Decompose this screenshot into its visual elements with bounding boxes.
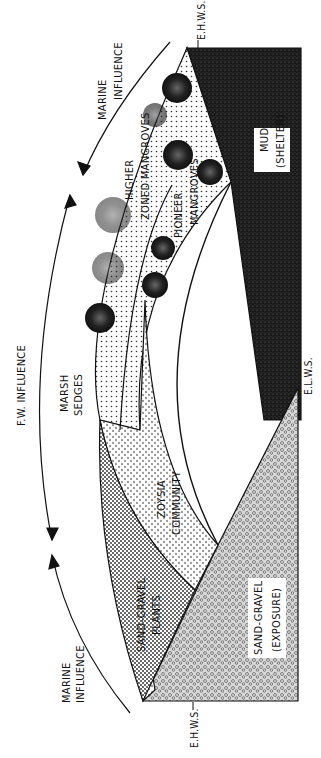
zoysia-line1: ZOYSIA [155, 480, 168, 518]
elws-label: E.L.W.S. [303, 357, 314, 395]
marine-influence-bottom-line2: INFLUENCE [74, 645, 87, 703]
sand-gravel-plants-line1: SAND-GRAVEL [135, 578, 148, 652]
tree-icon [95, 197, 131, 233]
sand-gravel-exposure-label: SAND-GRAVEL (EXPOSURE) [248, 578, 286, 658]
sand-gravel-exposure-line1: SAND-GRAVEL [252, 581, 265, 655]
marine-influence-bottom-line1: MARINE [60, 662, 73, 703]
mud-label-line2: (SHELTER) [274, 114, 287, 168]
tree-icon [85, 303, 115, 333]
marsh-sedges-label: MARSH SEDGES [58, 374, 85, 416]
tree-icon [92, 252, 124, 284]
mud-label-line1: MUD [258, 128, 271, 152]
sand-gravel-plants-line2: PLANTS [150, 595, 163, 635]
higher-mangroves-line1: HIGHER [123, 160, 136, 200]
ehws-bottom-label: E.H.W.S. [189, 708, 200, 748]
ehws-top-label: E.H.W.S. [196, 0, 207, 40]
marine-influence-top-line2: INFLUENCE [112, 42, 125, 100]
tree-icon [151, 236, 175, 260]
pioneer-mangroves-line1: PIONEER [172, 192, 185, 238]
fw-arrow [40, 195, 70, 540]
marsh-sedges-line2: SEDGES [72, 374, 85, 416]
marsh-sedges-line1: MARSH [58, 375, 71, 412]
tree-icon [142, 272, 168, 298]
higher-mangroves-line2: ZONED MANGROVES [139, 112, 152, 220]
fw-influence-label: F.W. INFLUENCE [15, 345, 28, 426]
pioneer-mangroves-line2: MANGROVES [188, 158, 201, 225]
marine-influence-top-line1: MARINE [96, 79, 109, 120]
tree-icon [162, 73, 192, 103]
sand-gravel-exposure-line2: (EXPOSURE) [270, 588, 283, 652]
zoysia-line2: COMMUNITY [170, 470, 183, 535]
coastal-zonation-diagram: MARINE INFLUENCE F.W. INFLUENCE MARINE I… [0, 0, 321, 758]
